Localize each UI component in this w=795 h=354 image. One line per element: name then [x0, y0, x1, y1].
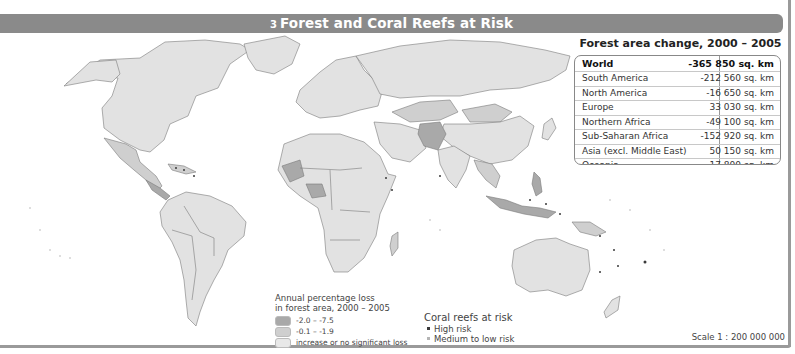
region-name: Sub-Saharan Africa — [582, 130, 668, 143]
coral-reef-legend: Coral reefs at risk High risk Medium to … — [424, 312, 514, 344]
africa — [278, 134, 396, 272]
table-row: North America -16 650 sq. km — [575, 87, 780, 102]
region-name: North America — [582, 87, 647, 100]
map-title-text: Forest and Coral Reefs at Risk — [280, 15, 513, 31]
swatch-no-loss — [275, 338, 291, 348]
region-name: World — [582, 56, 613, 71]
table-row: South America -212 560 sq. km — [575, 72, 780, 87]
legend-label: increase or no significant loss — [296, 338, 407, 348]
title-bar: 3Forest and Coral Reefs at Risk — [0, 14, 783, 33]
south-america — [160, 192, 246, 326]
forest-loss-legend: Annual percentage loss in forest area, 2… — [275, 293, 390, 349]
region-value: -212 560 sq. km — [701, 72, 774, 85]
legend-item-medium-risk: Medium to low risk — [424, 334, 514, 344]
japan — [542, 118, 556, 140]
legend-item-high-loss: -2.0 – -7.5 — [275, 316, 390, 327]
russia — [356, 40, 570, 98]
new-guinea — [572, 222, 606, 236]
mongolia — [462, 104, 512, 122]
legend-title-line2: in forest area, 2000 – 2005 — [275, 303, 390, 313]
legend-item-low-loss: -0.1 – -1.9 — [275, 327, 390, 338]
swatch-high-loss — [275, 316, 291, 326]
new-zealand — [604, 296, 620, 318]
table-row: Oceania -17 800 sq. km — [575, 159, 780, 165]
southeast-asia — [474, 160, 500, 188]
table-row: Northern Africa -49 100 sq. km — [575, 116, 780, 131]
legend-label: -2.0 – -7.5 — [296, 316, 334, 326]
region-name: Europe — [582, 101, 614, 114]
region-value: -16 650 sq. km — [706, 87, 774, 100]
region-value: -49 100 sq. km — [706, 116, 774, 129]
coral-legend-title: Coral reefs at risk — [424, 312, 514, 324]
greenland — [244, 36, 300, 74]
table-row: Europe 33 030 sq. km — [575, 101, 780, 116]
region-value: 50 150 sq. km — [710, 145, 774, 158]
legend-item-no-loss: increase or no significant loss — [275, 338, 390, 349]
forest-area-table: World -365 850 sq. km South America -212… — [574, 55, 781, 165]
legend-item-high-risk: High risk — [424, 324, 514, 334]
table-row-world: World -365 850 sq. km — [575, 56, 780, 72]
madagascar — [390, 232, 398, 256]
legend-label: -0.1 – -1.9 — [296, 327, 334, 337]
legend-label: Medium to low risk — [434, 334, 514, 344]
table-row: Asia (excl. Middle East) 50 150 sq. km — [575, 145, 780, 160]
north-america — [66, 40, 250, 152]
map-title: 3Forest and Coral Reefs at Risk — [0, 14, 783, 34]
region-name: Northern Africa — [582, 116, 650, 129]
alaska — [64, 60, 120, 86]
map-scale: Scale 1 : 200 000 000 — [692, 332, 785, 342]
region-name: Asia (excl. Middle East) — [582, 145, 686, 158]
medium-risk-dot-icon — [427, 337, 430, 340]
region-value: -17 800 sq. km — [706, 159, 774, 165]
australia — [512, 238, 590, 296]
kazakhstan — [392, 100, 458, 122]
table-row: Sub-Saharan Africa -152 920 sq. km — [575, 130, 780, 145]
region-value: -365 850 sq. km — [688, 56, 774, 71]
region-value: 33 030 sq. km — [710, 101, 774, 114]
region-name: Oceania — [582, 159, 619, 165]
legend-title-line1: Annual percentage loss — [275, 293, 390, 303]
legend-label: High risk — [434, 324, 471, 334]
philippines — [532, 172, 542, 196]
region-name: South America — [582, 72, 648, 85]
frame-right-border — [788, 0, 791, 347]
forest-table-title: Forest area change, 2000 – 2005 — [578, 37, 783, 50]
map-number: 3 — [270, 19, 277, 30]
high-risk-dot-icon — [427, 327, 430, 330]
caribbean — [168, 164, 196, 174]
middle-east — [374, 122, 426, 162]
swatch-low-loss — [275, 327, 291, 337]
indonesia — [486, 196, 556, 218]
region-value: -152 920 sq. km — [701, 130, 774, 143]
